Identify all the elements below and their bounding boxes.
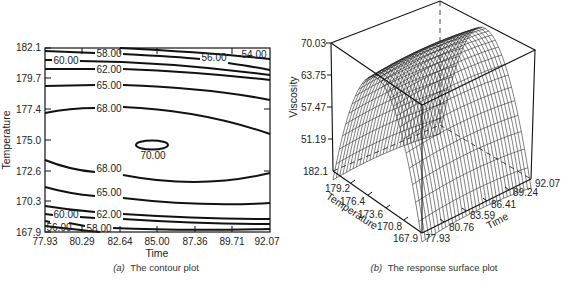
contour-label-60: 60.00 [53,55,78,66]
surface-mesh-line [410,38,500,200]
contour-x-tick-label: 80.29 [69,236,94,247]
contour-label-70: 70.00 [140,150,165,161]
surface-mesh-line [397,43,487,206]
contour-x-tick-label: 85.00 [144,236,169,247]
contour-y-axis-label: Temperature [0,110,12,169]
surface-z-tick-label: 51.19 [301,134,326,145]
contour-lines [45,48,270,232]
contour-x-tick-label: 82.64 [107,236,132,247]
contour-x-tick-label: 89.71 [219,236,244,247]
surface-temperature-tick-label: 167.9 [393,233,418,244]
surface-z-tick-label: 70.03 [301,38,326,49]
contour-label-68: 68.00 [96,163,121,174]
contour-label-62: 62.00 [96,64,121,75]
surface-temperature-tick-label: 182.1 [303,166,328,177]
contour-label-68: 68.00 [96,103,121,114]
contour-y-tick-label: 175.0 [16,135,41,146]
contour-plot-caption: (a) The contour plot [113,262,199,273]
contour-y-tick-label: 177.4 [16,104,41,115]
contour-label-58: 58.00 [96,48,121,59]
contour-label-65: 65.00 [96,187,121,198]
surface-z-axis-label: Viscosity [287,76,299,118]
contour-label-56: 56.00 [201,52,226,63]
contour-y-tick-label: 172.6 [16,166,41,177]
contour-plot: 182.1 179.7 177.4 175.0 172.6 170.3 167.… [0,42,280,273]
contour-x-tick-label: 92.07 [254,236,279,247]
contour-y-tick-label: 182.1 [16,42,41,53]
surface-time-tick-label: 77.93 [425,233,450,244]
surface-time-tick-label: 92.07 [535,178,560,189]
contour-label-54: 54.00 [241,49,266,60]
contour-x-tick-label: 87.36 [182,236,207,247]
contour-x-tick-label: 77.93 [32,236,57,247]
surface-time-tick-label: 86.41 [491,199,516,210]
surface-z-tick-label: 63.75 [301,70,326,81]
surface-plot-caption: (b) The response surface plot [371,262,498,273]
contour-label-58: 58.00 [86,223,111,234]
surface-z-tick-label: 57.47 [301,102,326,113]
surface-plot: 70.03 63.75 57.47 51.19 Viscosity 182.1 … [287,1,560,273]
contour-label-60: 60.00 [53,209,78,220]
surface-mesh-line [400,42,490,204]
contour-y-tick-label: 170.3 [16,196,41,207]
surface-mesh-line [417,35,508,197]
figure: 182.1 179.7 177.4 175.0 172.6 170.3 167.… [0,0,561,283]
contour-label-65: 65.00 [96,80,121,91]
surface-mesh-line [413,36,504,198]
surface-temperature-tick-label: 170.8 [377,221,402,232]
surface-time-tick-label: 80.76 [449,222,474,233]
surface-mesh-line [430,30,521,191]
contour-x-axis-label: Time [146,247,169,259]
contour-label-62: 62.00 [96,209,121,220]
contour-label-56: 56.00 [46,222,71,233]
contour-y-tick-label: 179.7 [16,73,41,84]
